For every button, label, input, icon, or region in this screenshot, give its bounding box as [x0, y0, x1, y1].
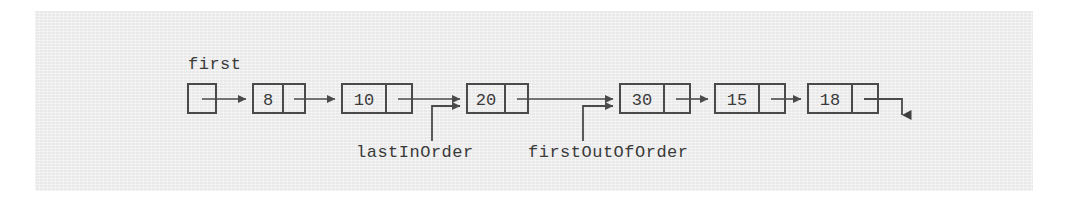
node-value-8: 8: [253, 92, 283, 109]
lastInOrder-connector: [432, 106, 460, 141]
first-pointer-box: [188, 84, 246, 113]
first-pointer-label: first: [188, 56, 242, 73]
node-value-15: 15: [715, 92, 759, 109]
firstOutOfOrder-label: firstOutOfOrder: [528, 144, 689, 161]
node-value-10: 10: [342, 92, 386, 109]
node-value-20: 20: [467, 92, 505, 109]
lastInOrder-label: lastInOrder: [356, 144, 474, 161]
linked-list-diagram: [0, 0, 1067, 214]
node-value-18: 18: [808, 92, 852, 109]
node-value-30: 30: [620, 92, 664, 109]
firstOutOfOrder-connector: [583, 106, 613, 141]
figure-screenshot: first 8 10 20 30 15 18 lastInOrder first…: [0, 0, 1067, 214]
